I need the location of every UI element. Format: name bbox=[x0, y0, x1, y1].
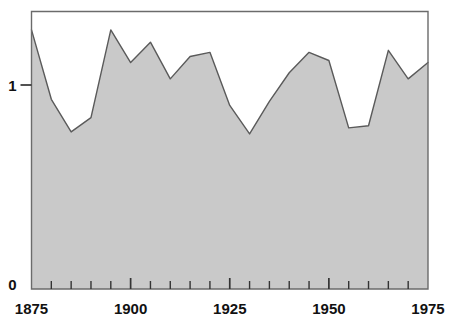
x-tick-label: 1925 bbox=[213, 301, 246, 316]
plot-area bbox=[32, 30, 429, 289]
y-tick-label: 0 bbox=[8, 277, 16, 292]
chart-figure: 18751900192519501975 01 bbox=[0, 0, 450, 332]
area-chart bbox=[0, 0, 450, 332]
y-tick-label: 1 bbox=[8, 78, 16, 93]
x-tick-label: 1975 bbox=[411, 301, 444, 316]
x-tick-label: 1875 bbox=[15, 301, 48, 316]
area-series-fill bbox=[32, 30, 429, 289]
x-tick-label: 1950 bbox=[312, 301, 345, 316]
x-tick-label: 1900 bbox=[114, 301, 147, 316]
